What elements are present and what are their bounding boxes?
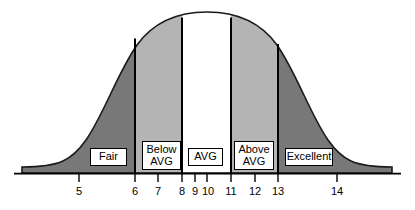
band-label-avg: AVG	[188, 148, 223, 166]
x-axis-ticks	[79, 174, 337, 182]
bell-curve-chart: Fair Below AVG AVG Above AVG Excellent 5…	[0, 0, 415, 210]
bell-curve-graphic	[0, 0, 415, 210]
tick-label-8: 8	[179, 185, 185, 197]
tick-label-11: 11	[225, 185, 236, 197]
band-label-excellent: Excellent	[285, 148, 333, 166]
tick-label-13: 13	[272, 185, 284, 197]
tick-label-14: 14	[331, 185, 343, 197]
tick-label-6: 6	[132, 185, 138, 197]
tick-label-7: 7	[155, 185, 161, 197]
tick-label-9: 9	[192, 185, 198, 197]
tick-label-10: 10	[202, 185, 214, 197]
tick-label-5: 5	[76, 185, 82, 197]
band-label-above-avg: Above AVG	[234, 141, 274, 170]
tick-label-12: 12	[249, 185, 261, 197]
band-label-fair: Fair	[90, 148, 127, 166]
band-label-below-avg: Below AVG	[142, 141, 181, 170]
